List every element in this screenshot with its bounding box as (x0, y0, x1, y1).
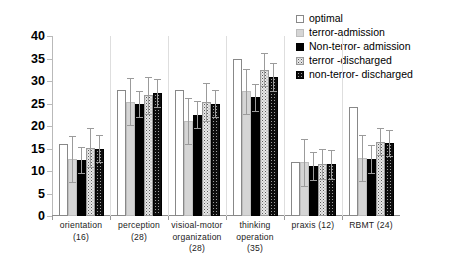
x-axis-category-label-line: RBMT (24) (342, 220, 400, 232)
bar-slot (358, 36, 367, 216)
error-bar-cap (328, 179, 335, 180)
error-bar-cap (212, 117, 219, 118)
error-bar-cap (252, 111, 259, 112)
y-axis-tick-label: 30 (31, 76, 45, 86)
error-bar-cap (96, 135, 103, 136)
error-bar-cap (270, 63, 277, 64)
error-bar-cap (136, 117, 143, 118)
error-bar-cap (319, 149, 326, 150)
error-bar-cap (203, 83, 210, 84)
error-bar-cap (310, 152, 317, 153)
error-bar-cap (368, 173, 375, 174)
error-bar (99, 135, 100, 163)
error-bar-cap (359, 181, 366, 182)
y-axis-tick-label: 40 (31, 31, 45, 41)
error-bar-cap (377, 155, 384, 156)
bar-slot (291, 36, 300, 216)
plot-area: 0510152025303540 (52, 36, 400, 216)
bar-group (110, 36, 168, 216)
bar-slot (68, 36, 77, 216)
chart-root: optimalterror-admissionNon-terror- admis… (0, 0, 460, 274)
bar-groups (52, 36, 400, 216)
error-bar-cap (203, 121, 210, 122)
bar-slot (385, 36, 394, 216)
y-axis-tick-label: 0 (38, 211, 45, 221)
bar-slot (77, 36, 86, 216)
x-axis-category-label-line: (16) (52, 232, 110, 244)
error-bar-cap (386, 156, 393, 157)
error-bar (188, 98, 189, 144)
bar-slot (153, 36, 162, 216)
error-bar (255, 84, 256, 111)
error-bar-cap (270, 91, 277, 92)
error-bar-cap (243, 69, 250, 70)
error-bar (139, 91, 140, 117)
error-bar-cap (261, 53, 268, 54)
bar-slot (269, 36, 278, 216)
bar-slot (300, 36, 309, 216)
bar-slot (117, 36, 126, 216)
error-bar-cap (301, 186, 308, 187)
legend-item: optimal (296, 12, 413, 25)
bar (251, 97, 260, 216)
error-bar-cap (212, 90, 219, 91)
bar-slot (309, 36, 318, 216)
error-bar-cap (185, 98, 192, 99)
bar (291, 162, 300, 216)
bar-slot (144, 36, 153, 216)
error-bar-cap (87, 128, 94, 129)
y-axis-tick-label: 10 (31, 166, 45, 176)
x-axis-category-label: thinkingoperation(35) (226, 220, 284, 255)
error-bar (246, 69, 247, 114)
error-bar (371, 145, 372, 173)
error-bar (81, 147, 82, 173)
y-axis-tick-label: 35 (31, 54, 45, 64)
bar (135, 104, 144, 216)
bar-slot (318, 36, 327, 216)
x-axis-category-label-line: organization (168, 232, 226, 244)
bar (349, 107, 358, 216)
error-bar (130, 78, 131, 125)
bar-slot (126, 36, 135, 216)
error-bar (304, 139, 305, 186)
error-bar-cap (78, 173, 85, 174)
bar-group (226, 36, 284, 216)
error-bar (215, 90, 216, 118)
error-bar-cap (127, 125, 134, 126)
x-axis-category-label: perception(28) (110, 220, 168, 243)
bar (211, 104, 220, 217)
error-bar-cap (252, 84, 259, 85)
bar-group (168, 36, 226, 216)
bar-slot (242, 36, 251, 216)
bar (233, 59, 242, 217)
x-axis-category-label: RBMT (24) (342, 220, 400, 232)
bar-slot (327, 36, 336, 216)
error-bar-cap (145, 114, 152, 115)
error-bar-cap (127, 78, 134, 79)
error-bar-cap (136, 91, 143, 92)
x-axis-category-label-line: (28) (110, 232, 168, 244)
y-axis-tick-label: 25 (31, 99, 45, 109)
bar-slot (211, 36, 220, 216)
bar-group (52, 36, 110, 216)
x-axis-category-label-line: visioal-motor (168, 220, 226, 232)
y-axis-tick-label: 5 (38, 189, 45, 199)
error-bar (264, 53, 265, 86)
bar-slot (367, 36, 376, 216)
bar-slot (202, 36, 211, 216)
error-bar-cap (69, 136, 76, 137)
bar-slot (86, 36, 95, 216)
error-bar-cap (194, 128, 201, 129)
legend-item-label: optimal (309, 13, 343, 24)
error-bar-cap (319, 179, 326, 180)
error-bar-cap (359, 135, 366, 136)
bar-group-bars (110, 36, 168, 216)
error-bar (206, 83, 207, 121)
bar-slot (95, 36, 104, 216)
bar-group-bars (226, 36, 284, 216)
error-bar-cap (368, 145, 375, 146)
error-bar (72, 136, 73, 182)
x-axis-category-label: visioal-motororganization(28) (168, 220, 226, 255)
error-bar-cap (386, 130, 393, 131)
bar-group-bars (342, 36, 400, 216)
